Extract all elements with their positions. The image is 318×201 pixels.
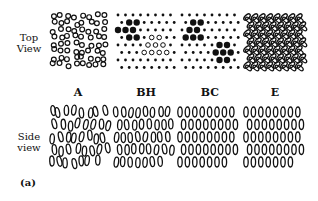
top-view-label: Top View [12,32,46,54]
side-view-panel-a [48,106,110,170]
phase-label-e: E [255,86,295,99]
figure-tag: (a) [16,177,40,188]
top-view-panel-e [242,12,306,72]
top-view-panel-a [50,12,110,72]
top-view-panel-bh [114,12,176,72]
phase-label-bh: BH [126,86,166,99]
top-view-panel-bc [178,12,240,72]
side-view-panel-bh [112,106,174,170]
side-view-label: Side view [12,131,46,153]
side-view-panel-e [242,106,304,170]
phase-label-a: A [58,86,98,99]
side-view-panel-bc [176,106,238,170]
phase-label-bc: BC [190,86,230,99]
